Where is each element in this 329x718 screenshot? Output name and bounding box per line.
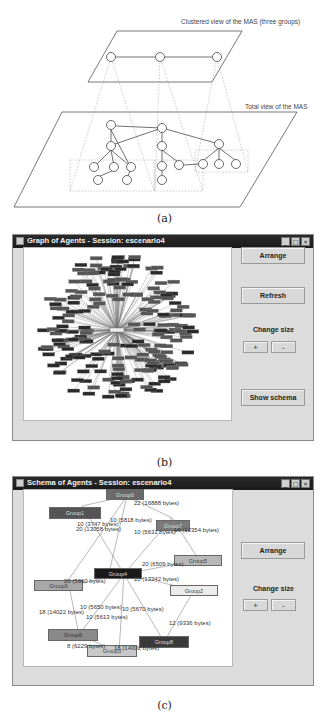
arrange-button[interactable]: Arrange (241, 542, 305, 559)
edge-label: 22 (16888 bytes) (134, 500, 179, 506)
size-decrease-button[interactable]: - (271, 341, 296, 353)
schema-of-agents-window: Schema of Agents - Session: escenario4 _… (12, 476, 314, 686)
edge-label: 10 (5670 bytes) (122, 606, 164, 612)
size-increase-button[interactable]: + (243, 599, 268, 611)
change-size-label: Change size (253, 585, 294, 592)
schema-canvas[interactable]: Group0 Group1 Group7 Group4 Group5 Group… (23, 489, 233, 667)
agent-graph-canvas[interactable] (23, 247, 232, 421)
total-view-label: Total view of the MAS (245, 103, 308, 110)
graph-of-agents-window: Graph of Agents - Session: escenario4 _ … (12, 234, 314, 441)
edge-label: 20 (13342 bytes) (134, 576, 179, 582)
maximize-button[interactable]: □ (291, 479, 300, 488)
schema-node-group2[interactable]: Group2 (170, 585, 218, 596)
schema-node-group1[interactable]: Group1 (49, 507, 101, 519)
edge-label: 18 (14002 bytes) (114, 645, 159, 651)
window-app-icon (16, 479, 24, 487)
edge-label: 10 (5613 bytes) (86, 614, 128, 620)
close-button[interactable]: × (301, 237, 310, 246)
caption-b: (b) (0, 456, 329, 469)
edge-label: 10 (5650 bytes) (80, 604, 122, 610)
minimize-button[interactable]: _ (281, 237, 290, 246)
edge-label: 20 (13058 bytes) (76, 526, 121, 532)
caption-c: (c) (0, 699, 329, 712)
window-app-icon (16, 237, 24, 245)
edge-label: 16 (12354 bytes) (174, 527, 219, 533)
edge-label: 20 (5960 bytes) (64, 578, 106, 584)
edge-label: 8 (6229 bytes) (67, 643, 105, 649)
schema-node-group0[interactable]: Group0 (106, 489, 144, 500)
clustered-view-label: Clustered view of the MAS (three groups) (181, 18, 300, 25)
window-title: Schema of Agents - Session: escenario4 (27, 478, 171, 487)
arrange-button[interactable]: Arrange (241, 247, 305, 264)
schema-node-group6[interactable]: Group6 (48, 629, 98, 641)
edge-label: 10 (5631 bytes) (134, 529, 176, 535)
size-increase-button[interactable]: + (243, 341, 268, 353)
edge-label: 20 (6509 bytes) (142, 561, 184, 567)
change-size-label: Change size (253, 326, 294, 333)
window-title: Graph of Agents - Session: escenario4 (27, 236, 165, 245)
agent-graph (24, 248, 231, 420)
show-schema-button[interactable]: Show schema (241, 389, 305, 406)
edge-label: 18 (14022 bytes) (39, 609, 84, 615)
edge-label: 12 (9336 bytes) (169, 620, 211, 626)
size-decrease-button[interactable]: - (271, 599, 296, 611)
close-button[interactable]: × (301, 479, 310, 488)
refresh-button[interactable]: Refresh (241, 287, 305, 304)
minimize-button[interactable]: _ (281, 479, 290, 488)
maximize-button[interactable]: □ (291, 237, 300, 246)
caption-a: (a) (0, 212, 329, 225)
